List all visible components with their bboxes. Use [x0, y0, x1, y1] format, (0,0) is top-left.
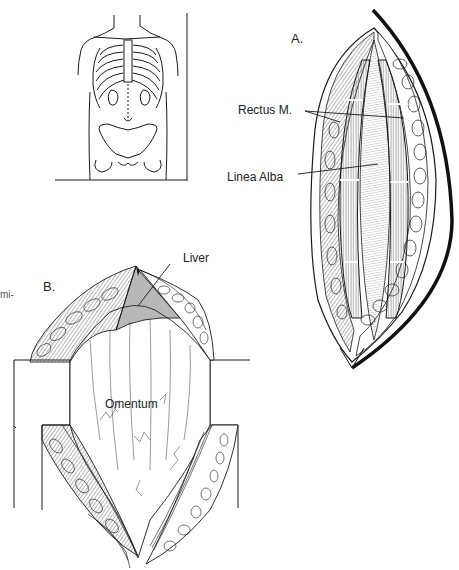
margin-text-fragment: mi- [0, 290, 14, 300]
rectus-muscle-label: Rectus M. [238, 104, 292, 116]
panel-a-letter: A. [291, 32, 303, 45]
liver-label: Liver [183, 252, 209, 264]
panel-b-drawing [14, 266, 250, 568]
panel-a-drawing [311, 10, 452, 368]
illustration-canvas [0, 0, 459, 570]
torso-inset [55, 13, 187, 181]
panel-b-letter: B. [43, 280, 55, 293]
omentum-label: Omentum [105, 398, 158, 410]
linea-alba-label: Linea Alba [227, 171, 283, 183]
